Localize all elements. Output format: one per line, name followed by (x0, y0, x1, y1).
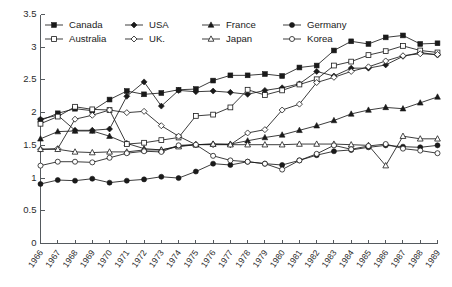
legend-item-germany[interactable]: Germany (283, 19, 347, 30)
legend-item-korea[interactable]: Korea (283, 33, 333, 44)
data-point-marker (159, 174, 164, 179)
data-point-marker (124, 151, 129, 156)
y-axis-tick-label: 0 (31, 237, 36, 248)
legend-item-japan[interactable]: Japan (202, 33, 252, 44)
y-axis-tick-label: 3 (31, 41, 36, 52)
data-point-marker (262, 161, 267, 166)
series-line (41, 52, 438, 130)
data-point-marker (131, 22, 137, 28)
series-line (41, 35, 438, 120)
data-point-marker (73, 178, 78, 183)
x-axis-tick-label: 1979 (250, 248, 269, 270)
x-axis-tick-label: 1987 (388, 248, 407, 270)
data-point-marker (38, 181, 43, 186)
x-axis-tick-label: 1971 (112, 248, 131, 270)
legend-label: France (226, 19, 256, 30)
data-point-marker (107, 126, 113, 132)
data-point-marker (383, 58, 389, 64)
data-point-marker (383, 104, 389, 109)
data-point-marker (349, 59, 354, 64)
data-point-marker (280, 74, 285, 79)
legend-label: Australia (69, 33, 107, 44)
data-point-marker (107, 149, 113, 154)
x-axis-tick-label: 1983 (319, 248, 338, 270)
data-point-marker (366, 143, 371, 148)
legend-label: UK. (149, 33, 165, 44)
data-point-marker (228, 73, 233, 78)
chart-legend: CanadaUSAFranceGermanyAustraliaUK.JapanK… (45, 19, 347, 44)
data-point-marker (401, 44, 406, 49)
data-point-marker (124, 178, 129, 183)
data-point-marker (400, 146, 405, 151)
x-axis-tick-label: 1978 (233, 248, 252, 270)
data-point-marker (314, 141, 320, 146)
legend-item-australia[interactable]: Australia (45, 33, 107, 44)
data-point-marker (159, 138, 164, 143)
y-axis-tick-label: 3.5 (23, 8, 36, 19)
chart-canvas: 00.511.522.533.5 19661967196819691970197… (0, 0, 452, 287)
data-point-marker (331, 149, 336, 154)
data-point-marker (124, 142, 129, 147)
series-germany (38, 143, 440, 187)
data-point-marker (245, 130, 251, 136)
series-line (41, 145, 438, 184)
y-axis-tick-label: 2.5 (23, 73, 36, 84)
data-point-marker (90, 160, 95, 165)
y-axis: 00.511.522.533.5 (23, 8, 44, 248)
legend-item-france[interactable]: France (202, 19, 256, 30)
data-point-marker (314, 63, 319, 68)
data-point-marker (208, 22, 214, 27)
data-point-marker (245, 159, 250, 164)
legend-label: Korea (307, 33, 333, 44)
data-point-marker (208, 36, 214, 41)
series-layer (38, 33, 441, 186)
data-point-marker (383, 49, 388, 54)
data-point-marker (38, 163, 43, 168)
line-chart: 00.511.522.533.5 19661967196819691970197… (0, 0, 452, 287)
series-australia (38, 44, 440, 147)
data-point-marker (297, 158, 302, 163)
data-point-marker (107, 97, 112, 102)
data-point-marker (383, 35, 388, 40)
x-axis-tick-label: 1981 (285, 248, 304, 270)
x-axis-tick-label: 1975 (181, 248, 200, 270)
data-point-marker (142, 149, 147, 154)
data-point-marker (297, 82, 302, 87)
x-axis-tick-label: 1986 (371, 248, 390, 270)
data-point-marker (193, 114, 198, 119)
data-point-marker (349, 147, 354, 152)
data-point-marker (227, 89, 233, 95)
data-point-marker (176, 176, 181, 181)
x-axis-tick-label: 1980 (268, 248, 287, 270)
legend-label: Japan (226, 33, 252, 44)
data-point-marker (142, 92, 147, 97)
data-point-marker (435, 143, 440, 148)
data-point-marker (90, 176, 95, 181)
legend-item-canada[interactable]: Canada (45, 19, 103, 30)
data-point-marker (52, 37, 57, 42)
series-line (41, 97, 438, 150)
data-point-marker (262, 72, 267, 77)
x-axis-tick-label: 1985 (354, 248, 373, 270)
x-axis-tick-label: 1973 (147, 248, 166, 270)
legend-label: Germany (307, 19, 347, 30)
data-point-marker (401, 33, 406, 38)
data-point-marker (193, 169, 198, 174)
data-point-marker (55, 159, 60, 164)
data-point-marker (55, 178, 60, 183)
data-point-marker (245, 87, 250, 92)
data-point-marker (211, 161, 216, 166)
data-point-marker (52, 23, 57, 28)
x-axis-tick-label: 1972 (130, 248, 149, 270)
data-point-marker (72, 116, 78, 122)
data-point-marker (228, 158, 233, 163)
data-point-marker (289, 36, 294, 41)
data-point-marker (124, 110, 130, 116)
y-axis-tick-label: 2 (31, 106, 36, 117)
data-point-marker (314, 68, 320, 74)
legend-item-usa[interactable]: USA (125, 19, 169, 30)
data-point-marker (38, 121, 43, 126)
data-point-marker (435, 151, 440, 156)
data-point-marker (55, 114, 60, 119)
legend-item-uk[interactable]: UK. (125, 33, 165, 44)
